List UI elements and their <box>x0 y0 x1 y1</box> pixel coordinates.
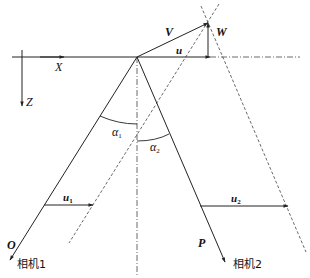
stereo-camera-velocity-diagram: X Z V W u α1 α2 u1 u2 O P 相机1 相机2 <box>0 0 310 278</box>
w-vector-label: W <box>216 26 227 38</box>
v-vector-label: V <box>165 26 173 38</box>
u2-subscript: 2 <box>237 198 241 206</box>
alpha1-arc <box>100 116 137 124</box>
x-axis-label: X <box>55 61 62 73</box>
u-vector-label: u <box>176 45 182 56</box>
camera2-parallel-dashed <box>201 6 306 252</box>
camera1-label: 相机1 <box>17 259 46 270</box>
u1-subscript: 1 <box>69 197 73 205</box>
alpha1-label: α1 <box>112 126 122 140</box>
u1-label: u1 <box>63 192 73 205</box>
u2-label: u2 <box>231 193 241 206</box>
alpha2-subscript: 2 <box>156 147 160 155</box>
camera2-label: 相机2 <box>233 259 262 270</box>
z-axis-label: Z <box>26 96 33 108</box>
camera1-line <box>10 57 137 260</box>
camera2-line <box>137 57 225 262</box>
point-o-label: O <box>7 239 16 251</box>
camera1-parallel-dashed <box>69 4 219 243</box>
diagram-lines <box>0 0 310 278</box>
alpha2-label: α2 <box>150 141 160 155</box>
alpha1-subscript: 1 <box>118 132 122 140</box>
point-p-label: P <box>198 237 205 249</box>
